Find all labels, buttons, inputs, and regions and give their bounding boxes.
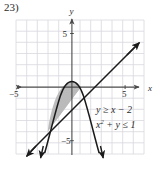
x-axis-label: x [147,83,152,93]
inequality-parabola-suffix: + y ≤ 1 [104,119,136,130]
x-tick-negative-label: −5 [9,89,19,99]
y-tick-positive-label: 5 [63,29,68,39]
figure-container: 23) [0,0,160,170]
y-axis-label: y [69,6,74,16]
graph-plot: x y −5 5 5 −5 [0,0,160,170]
x-tick-positive-label: 5 [122,89,127,99]
inequality-parabola-label: x2 + y ≤ 1 [96,116,135,131]
y-tick-negative-label: −5 [61,136,71,146]
inequality-line-label: y ≥ x − 2 [96,104,135,116]
inequality-annotations: y ≥ x − 2 x2 + y ≤ 1 [96,104,135,130]
